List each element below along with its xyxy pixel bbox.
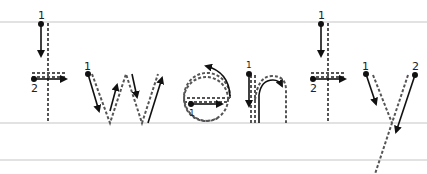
stroke-number: 2 (31, 82, 38, 95)
stroke-number: 1 (189, 108, 195, 118)
letter-t-1 (32, 23, 65, 123)
stroke-number: 2 (310, 82, 317, 95)
letter-n (251, 75, 286, 123)
arrow-up-icon (110, 85, 117, 111)
stroke-number: 1 (246, 60, 252, 70)
stroke-number: 1 (318, 9, 325, 22)
guide-lines (0, 22, 427, 160)
stroke-number: 1 (362, 60, 369, 73)
arrow-curve-icon (259, 80, 282, 123)
letter-w (92, 74, 158, 123)
arrow-down-icon (366, 74, 376, 104)
letter-t-2 (311, 23, 345, 123)
arrow-down-icon (132, 74, 137, 97)
stroke-number: 1 (84, 60, 91, 73)
handwriting-worksheet: 1 2 1 1 1 1 2 1 2 (0, 0, 427, 174)
stroke-number: 2 (412, 60, 419, 73)
stroke-number: 1 (38, 9, 45, 22)
